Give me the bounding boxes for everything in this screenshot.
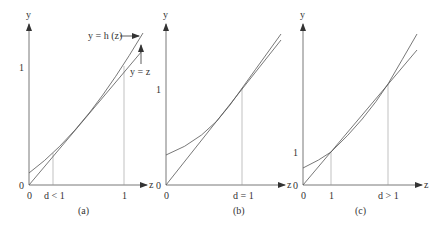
y-tick-1: 1 (156, 85, 161, 95)
x-tick-d: d < 1 (44, 191, 65, 201)
curve-h (29, 33, 143, 173)
line-y-eq-z (303, 50, 417, 185)
curve-label-z: y = z (130, 67, 150, 77)
x-tick-d: d = 1 (233, 191, 254, 201)
y-axis-label: y (163, 10, 168, 20)
curve-h (303, 34, 417, 168)
origin-label-x: 0 (164, 191, 169, 201)
y-axis-label: y (26, 10, 31, 20)
panel-c (303, 24, 422, 185)
x-tick-1: 1 (329, 191, 334, 201)
x-axis-label: z (424, 180, 428, 190)
curve-label-h: y = h (z) (88, 31, 122, 41)
y-tick-1: 1 (19, 63, 24, 73)
curve-h (166, 34, 281, 155)
panel-b (166, 24, 285, 185)
origin-label-x: 0 (301, 191, 306, 201)
origin-label-x: 0 (27, 191, 32, 201)
x-tick-1: 1 (122, 191, 127, 201)
panel-a (29, 24, 147, 185)
y-axis-label: y (300, 10, 305, 20)
y-tick-1: 1 (293, 148, 298, 158)
caption-b: (b) (233, 206, 245, 216)
figure-canvas (0, 0, 442, 226)
x-axis-label: z (287, 180, 291, 190)
x-axis-label: z (149, 180, 153, 190)
origin-label-y: 0 (19, 181, 24, 191)
caption-c: (c) (355, 206, 366, 216)
x-tick-d: d > 1 (378, 191, 399, 201)
caption-a: (a) (78, 206, 89, 216)
origin-label-y: 0 (156, 181, 161, 191)
line-y-eq-z (166, 40, 281, 185)
origin-label-y: 0 (293, 181, 298, 191)
